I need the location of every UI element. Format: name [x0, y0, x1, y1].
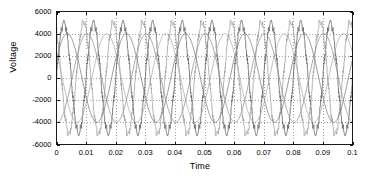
x-tick-label: 0.03: [130, 148, 160, 157]
x-axis-label: Time: [160, 161, 240, 171]
y-tick-label: -4000: [12, 117, 52, 126]
x-tick-label: 0: [42, 148, 72, 157]
y-tick-label: 6000: [12, 7, 52, 16]
chart-figure: -6000-4000-20000200040006000 00.010.020.…: [0, 0, 373, 180]
x-tick-label: 0.02: [101, 148, 131, 157]
x-tick-label: 0.07: [249, 148, 279, 157]
x-tick-label: 0.06: [219, 148, 249, 157]
x-tick-label: 0.09: [308, 148, 338, 157]
x-tick-label: 0.01: [71, 148, 101, 157]
y-tick-label: -2000: [12, 95, 52, 104]
x-tick-label: 0.05: [190, 148, 220, 157]
series-layer: [57, 20, 353, 136]
x-tick-label: 0.1: [338, 148, 368, 157]
y-axis-label: Voltage: [8, 27, 18, 87]
x-tick-label: 0.04: [160, 148, 190, 157]
x-tick-label: 0.08: [278, 148, 308, 157]
